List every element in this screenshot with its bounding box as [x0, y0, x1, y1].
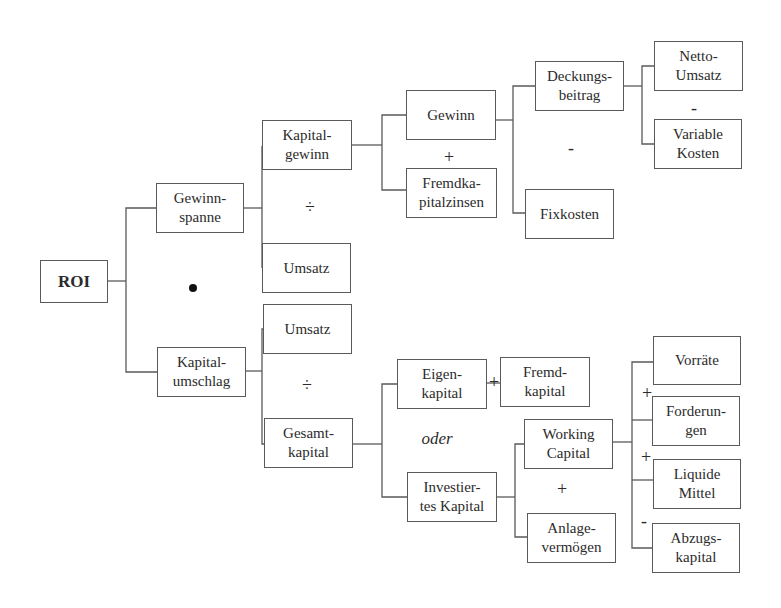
node-fixkosten: Fixkosten: [525, 189, 614, 239]
roi-tree-diagram: ROI Gewinn- spanne Kapital- umschlag Kap…: [0, 0, 781, 608]
node-umsatz-top-label: Umsatz: [284, 259, 330, 278]
plus-operator-gewinn: +: [444, 148, 454, 166]
node-fremdkapital-label: Fremd- kapital: [523, 363, 567, 401]
node-working-capital-label: Working Capital: [542, 425, 594, 463]
node-deckungsbeitrag: Deckungs- beitrag: [535, 61, 624, 111]
node-forderungen-label: Forderun- gen: [666, 402, 726, 440]
node-netto-umsatz: Netto- Umsatz: [654, 41, 743, 91]
node-roi: ROI: [40, 260, 108, 303]
node-abzugskapital: Abzugs- kapital: [652, 523, 740, 573]
connector-lines: [0, 0, 781, 608]
node-eigenkapital-label: Eigen- kapital: [422, 365, 463, 403]
plus-operator-eigen-fremd: +: [489, 373, 499, 391]
node-kapitalumschlag: Kapital- umschlag: [157, 347, 246, 397]
node-kapitalumschlag-label: Kapital- umschlag: [173, 353, 231, 391]
plus-operator-forderungen-liquide: +: [641, 448, 651, 466]
node-fremdkapitalzinsen-label: Fremdka- pitalzinsen: [419, 174, 484, 212]
node-gewinn-label: Gewinn: [427, 106, 475, 125]
node-vorraete-label: Vorräte: [675, 351, 719, 370]
node-fremdkapitalzinsen: Fremdka- pitalzinsen: [406, 168, 497, 218]
node-gewinnspanne-label: Gewinn- spanne: [174, 189, 227, 227]
node-umsatz-top: Umsatz: [262, 243, 351, 293]
multiply-operator-icon: [189, 284, 197, 292]
node-fixkosten-label: Fixkosten: [540, 205, 599, 224]
node-liquide-mittel-label: Liquide Mittel: [674, 465, 721, 503]
node-abzugskapital-label: Abzugs- kapital: [671, 529, 722, 567]
node-gewinnspanne: Gewinn- spanne: [156, 183, 244, 233]
node-vorraete: Vorräte: [653, 336, 741, 385]
plus-operator-vorraete-forderungen: +: [642, 384, 652, 402]
node-roi-label: ROI: [58, 272, 90, 291]
node-working-capital: Working Capital: [524, 419, 613, 469]
node-umsatz-bottom: Umsatz: [263, 304, 352, 354]
node-gewinn: Gewinn: [406, 90, 496, 140]
node-liquide-mittel: Liquide Mittel: [653, 459, 741, 509]
divide-operator-bottom: ÷: [302, 376, 312, 394]
node-deckungsbeitrag-label: Deckungs- beitrag: [547, 67, 612, 105]
minus-operator-deckung: -: [568, 139, 574, 157]
node-netto-umsatz-label: Netto- Umsatz: [676, 47, 722, 85]
minus-operator-liquide-abzugs: -: [641, 512, 647, 530]
node-investiertes-kapital: Investier- tes Kapital: [407, 472, 497, 522]
divide-operator-top: ÷: [305, 198, 315, 216]
oder-label: oder: [421, 430, 452, 448]
node-investiertes-kapital-label: Investier- tes Kapital: [420, 478, 485, 516]
node-variable-kosten: Variable Kosten: [654, 119, 742, 169]
node-anlagevermoegen: Anlage- vermögen: [527, 513, 616, 563]
node-variable-kosten-label: Variable Kosten: [673, 125, 723, 163]
node-fremdkapital: Fremd- kapital: [500, 357, 590, 407]
node-umsatz-bottom-label: Umsatz: [285, 320, 331, 339]
node-kapitalgewinn-label: Kapital- gewinn: [282, 126, 331, 164]
node-gesamtkapital-label: Gesamt- kapital: [283, 424, 334, 462]
node-eigenkapital: Eigen- kapital: [397, 359, 487, 409]
plus-operator-working-anlage: +: [557, 480, 567, 498]
node-kapitalgewinn: Kapital- gewinn: [262, 120, 352, 170]
minus-operator-netto: -: [691, 99, 697, 117]
node-gesamtkapital: Gesamt- kapital: [264, 418, 353, 468]
node-forderungen: Forderun- gen: [652, 396, 740, 446]
node-anlagevermoegen-label: Anlage- vermögen: [542, 519, 602, 557]
